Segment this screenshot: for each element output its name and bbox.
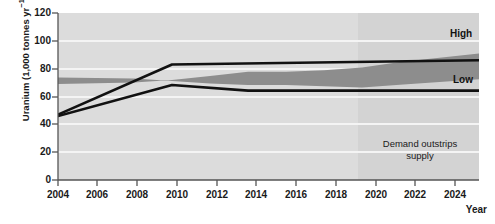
x-tick-2018: 2018	[316, 189, 356, 200]
x-tick-2024: 2024	[435, 189, 475, 200]
annotation-line-2: supply	[360, 150, 480, 162]
x-tick-2004: 2004	[38, 189, 78, 200]
x-tick-2022: 2022	[395, 189, 435, 200]
series-label-low: Low	[453, 74, 473, 85]
x-tick-2016: 2016	[276, 189, 316, 200]
x-tick-2012: 2012	[197, 189, 237, 200]
x-tick-2010: 2010	[157, 189, 197, 200]
uranium-supply-demand-chart: Uranium (1,000 tonnes yr−1) 0 20 40 60 8…	[0, 0, 495, 224]
series-label-high: High	[450, 28, 472, 39]
annotation-line-1: Demand outstrips	[360, 138, 480, 150]
x-axis-ticks	[58, 180, 455, 186]
y-axis-ticks	[52, 13, 58, 180]
x-tick-2014: 2014	[236, 189, 276, 200]
x-tick-2006: 2006	[77, 189, 117, 200]
annotation-demand-outstrips-supply: Demand outstrips supply	[360, 138, 480, 162]
x-tick-2008: 2008	[117, 189, 157, 200]
x-tick-2020: 2020	[356, 189, 396, 200]
x-axis-title: Year	[466, 204, 487, 215]
